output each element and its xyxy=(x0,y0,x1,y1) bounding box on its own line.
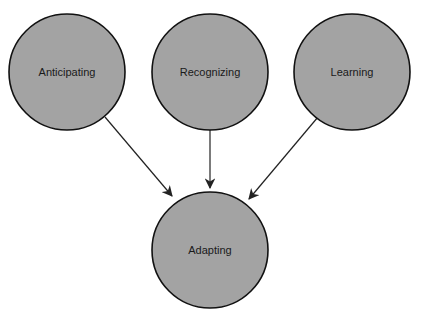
node-learning: Learning xyxy=(294,14,410,130)
node-label: Learning xyxy=(331,66,374,78)
node-label: Anticipating xyxy=(39,66,96,78)
arrow-anticipating-to-adapting xyxy=(105,117,172,196)
arrow-learning-to-adapting xyxy=(249,117,318,199)
node-label: Adapting xyxy=(188,244,231,256)
node-adapting: Adapting xyxy=(152,192,268,308)
flow-diagram: AnticipatingRecognizingLearningAdapting xyxy=(0,0,421,317)
node-recognizing: Recognizing xyxy=(152,14,268,130)
node-label: Recognizing xyxy=(180,66,241,78)
node-anticipating: Anticipating xyxy=(9,14,125,130)
